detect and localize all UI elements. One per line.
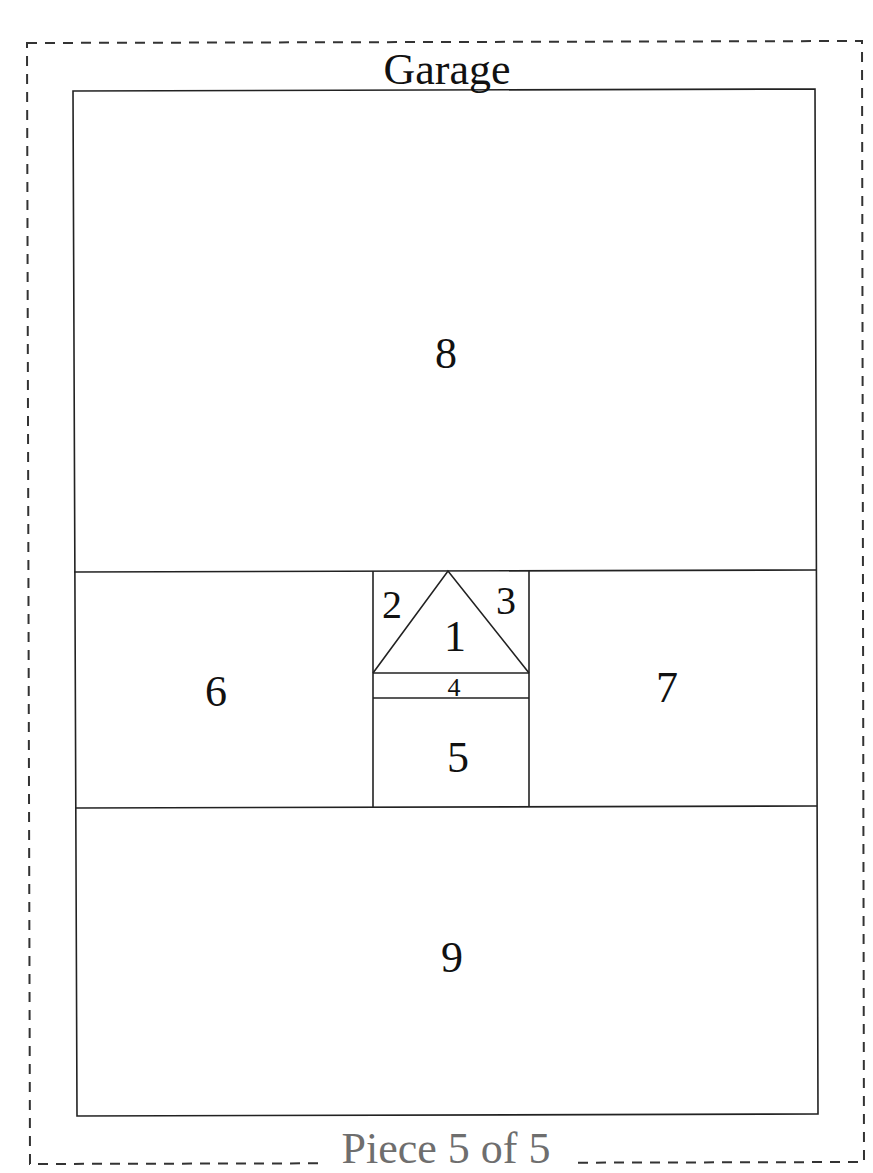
divider-bottom (76, 806, 817, 808)
section-2-label: 2 (382, 582, 402, 627)
dashed-cut-border (27, 41, 864, 1164)
quilt-pattern-diagram: Garage 8 6 7 2 3 1 4 5 9 Piece 5 of 5 (0, 0, 873, 1173)
block-title: Garage (383, 45, 510, 94)
section-8-label: 8 (435, 329, 457, 378)
section-1-label: 1 (444, 612, 466, 661)
section-9-label: 9 (441, 933, 463, 982)
section-5-label: 5 (447, 733, 469, 782)
section-3-label: 3 (496, 578, 516, 623)
piece-indicator: Piece 5 of 5 (342, 1124, 551, 1173)
section-6-label: 6 (205, 667, 227, 716)
divider-top (74, 570, 816, 572)
section-4-label: 4 (448, 673, 461, 702)
section-7-label: 7 (656, 663, 678, 712)
